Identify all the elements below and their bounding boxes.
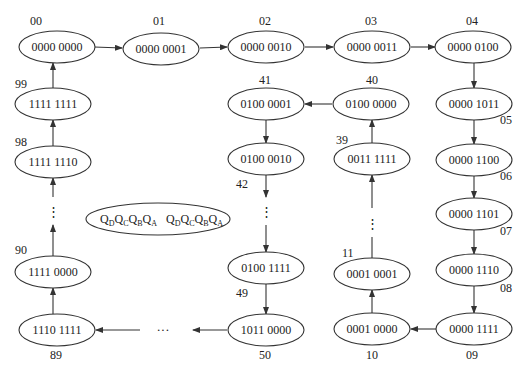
state-code: 0001 0001 — [347, 267, 398, 281]
state-number-label: 49 — [236, 286, 248, 300]
state-code: 1111 1110 — [29, 155, 78, 169]
state-code: 0100 0010 — [241, 152, 292, 166]
state-code: 0100 0001 — [241, 97, 292, 111]
state-code: 0000 0001 — [136, 42, 187, 56]
state-code: 0000 1011 — [449, 97, 500, 111]
state-number-label: 90 — [15, 243, 27, 257]
state-number-label: 41 — [259, 73, 271, 87]
state-number-label: 05 — [500, 113, 512, 127]
state-node-02: 0000 001002 — [228, 14, 304, 63]
state-number-label: 40 — [366, 73, 378, 87]
state-node-40: 0100 000040 — [333, 73, 409, 120]
state-number-label: 42 — [236, 177, 248, 191]
state-code: 1111 1111 — [29, 97, 77, 111]
ellipsis-right: ⋮ — [366, 216, 379, 231]
state-node-04: 0000 010004 — [435, 14, 511, 63]
state-code: 0000 1100 — [449, 153, 500, 167]
state-code: 1111 0000 — [28, 265, 78, 279]
state-diagram: ⋮ ⋮ ⋮ ··· 0000 0000000000 0001010000 001… — [0, 0, 529, 377]
state-code: 0000 1101 — [449, 207, 500, 221]
state-number-label: 06 — [500, 169, 512, 183]
ellipsis-left: ⋮ — [47, 204, 60, 219]
state-node-50: 1011 000050 — [228, 314, 304, 362]
state-code: 0100 1111 — [241, 261, 291, 275]
state-code: 0001 0000 — [347, 322, 398, 336]
state-node-01: 0000 000101 — [123, 14, 199, 65]
state-code: 0000 0011 — [347, 40, 398, 54]
state-number-label: 00 — [30, 14, 42, 28]
legend: QDQCQBQA QDQCQBQA — [86, 203, 230, 235]
edge-00-01 — [94, 47, 122, 48]
state-number-label: 99 — [15, 77, 27, 91]
state-code: 0000 1110 — [449, 263, 499, 277]
state-number-label: 98 — [15, 135, 27, 149]
state-number-label: 02 — [259, 14, 271, 28]
state-number-label: 50 — [259, 348, 271, 362]
state-code: 0000 1111 — [449, 322, 499, 336]
legend-label-right: QDQCQBQA — [166, 212, 223, 228]
state-node-10: 0001 000010 — [334, 313, 410, 362]
state-node-89: 1110 111189 — [19, 314, 95, 362]
state-number-label: 11 — [342, 246, 354, 260]
state-number-label: 03 — [365, 14, 377, 28]
legend-label-left: QDQCQBQA — [100, 212, 157, 228]
state-number-label: 89 — [50, 348, 62, 362]
state-number-label: 39 — [336, 133, 348, 147]
nodes: 0000 0000000000 0001010000 0010020000 00… — [15, 14, 512, 362]
state-code: 0000 0010 — [241, 40, 292, 54]
state-number-label: 09 — [466, 348, 478, 362]
state-node-00: 0000 000000 — [19, 14, 95, 63]
state-code: 0011 1111 — [347, 152, 396, 166]
ellipsis-bottom: ··· — [157, 322, 170, 337]
state-code: 1011 0000 — [241, 323, 292, 337]
state-number-label: 01 — [153, 14, 165, 28]
state-code: 0000 0000 — [32, 40, 83, 54]
state-node-03: 0000 001103 — [334, 14, 410, 63]
edge-01-02 — [200, 47, 227, 48]
state-node-09: 0000 111109 — [436, 313, 512, 362]
state-code: 0100 0000 — [346, 97, 397, 111]
ellipsis-middle: ⋮ — [260, 204, 273, 219]
state-code: 0000 0100 — [448, 40, 499, 54]
state-node-41: 0100 000141 — [228, 73, 304, 120]
state-code: 1110 1111 — [33, 323, 82, 337]
state-number-label: 10 — [366, 348, 378, 362]
state-number-label: 04 — [466, 14, 478, 28]
state-number-label: 08 — [500, 281, 512, 295]
state-number-label: 07 — [500, 224, 512, 238]
